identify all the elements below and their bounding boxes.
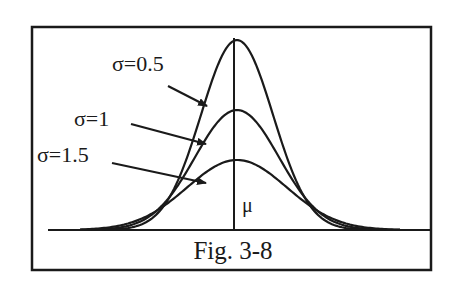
mean-label: μ	[242, 194, 253, 217]
label-sigma-1: σ=1	[74, 106, 109, 131]
curve-sigma-1	[80, 110, 400, 230]
figure-frame	[32, 27, 431, 270]
normal-distribution-figure: σ=0.5 σ=1 σ=1.5 μ Fig. 3-8	[0, 0, 450, 288]
curve-sigma-1-5	[80, 160, 400, 230]
figure-caption: Fig. 3-8	[193, 237, 272, 264]
arrow-sigma-0-5	[168, 86, 207, 106]
label-sigma-1-5: σ=1.5	[37, 142, 89, 167]
arrow-sigma-1-5	[112, 163, 206, 183]
label-sigma-0-5: σ=0.5	[112, 51, 164, 76]
